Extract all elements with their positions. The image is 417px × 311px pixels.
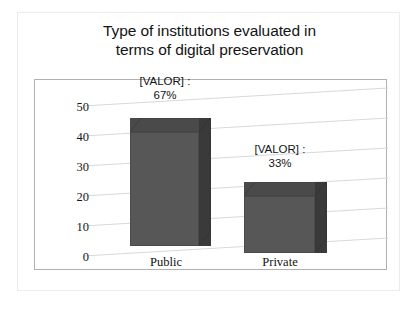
y-axis-tick-40: 40 — [49, 131, 89, 143]
bar-private[interactable] — [244, 182, 315, 253]
x-axis-label-public: Public — [121, 255, 211, 270]
y-axis-tick-30: 30 — [49, 161, 89, 173]
bar-public-top-face — [130, 118, 210, 132]
bar-private-side-face — [315, 182, 327, 253]
data-label-public: [VALOR] : 67% — [111, 74, 219, 102]
slide-canvas: Type of institutions evaluated in terms … — [17, 12, 400, 291]
bar-private-top-face — [244, 182, 326, 196]
y-axis-tick-50: 50 — [49, 101, 89, 113]
y-axis-tick-20: 20 — [49, 191, 89, 203]
bar-public-side-face — [199, 118, 211, 246]
data-label-private-value: 33% — [226, 156, 334, 170]
data-label-private-name: [VALOR] : — [226, 142, 334, 156]
data-label-public-value: 67% — [111, 88, 219, 102]
bar-public[interactable] — [130, 118, 199, 246]
chart-plot-area: 50 40 30 20 10 0 [VALOR] : 67% — [34, 79, 387, 270]
page-title: Type of institutions evaluated in terms … — [18, 21, 401, 59]
data-label-public-name: [VALOR] : — [111, 74, 219, 88]
y-axis-tick-10: 10 — [49, 221, 89, 233]
title-line-2: terms of digital preservation — [18, 40, 401, 59]
data-label-private: [VALOR] : 33% — [226, 142, 334, 170]
x-axis-label-private: Private — [235, 255, 325, 270]
bar-private-front-face — [244, 196, 315, 253]
title-line-1: Type of institutions evaluated in — [18, 21, 401, 40]
bar-public-front-face — [130, 132, 199, 246]
y-axis-tick-0: 0 — [49, 251, 89, 263]
